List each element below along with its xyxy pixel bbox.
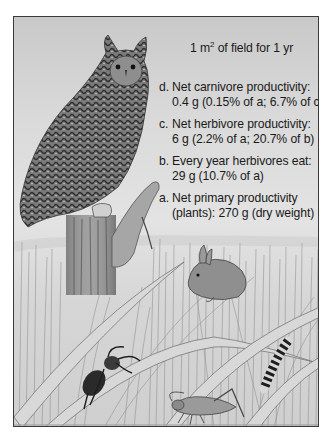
- item-letter: b.: [159, 154, 172, 169]
- item-heading: Net primary productivity: [172, 191, 298, 205]
- title-prefix: 1 m: [190, 41, 210, 55]
- label-b-herbivores-eat: b.Every year herbivores eat: 29 g (10.7%…: [159, 154, 312, 184]
- item-value: (plants): 270 g (dry weight): [159, 206, 314, 221]
- rabbit: [188, 245, 246, 302]
- label-d-carnivore-productivity: d.Net carnivore productivity: 0.4 g (0.1…: [159, 80, 319, 110]
- item-letter: a.: [159, 191, 172, 206]
- label-c-herbivore-productivity: c.Net herbivore productivity: 6 g (2.2% …: [159, 117, 314, 147]
- item-value: 6 g (2.2% of a; 20.7% of b): [159, 132, 314, 147]
- item-heading: Net carnivore productivity:: [172, 80, 310, 94]
- item-value: 0.4 g (0.15% of a; 6.7% of c): [159, 95, 319, 110]
- item-heading: Net herbivore productivity:: [172, 117, 311, 131]
- item-heading: Every year herbivores eat:: [172, 154, 312, 168]
- title-suffix: of field for 1 yr: [214, 41, 293, 55]
- figure-frame: 1 m2 of field for 1 yr d.Net carnivore p…: [13, 16, 319, 427]
- item-letter: d.: [159, 80, 172, 95]
- item-letter: c.: [159, 117, 172, 132]
- figure-title: 1 m2 of field for 1 yr: [190, 41, 293, 56]
- label-a-primary-productivity: a.Net primary productivity (plants): 270…: [159, 191, 314, 221]
- item-value: 29 g (10.7% of a): [159, 169, 312, 184]
- productivity-text-panel: 1 m2 of field for 1 yr d.Net carnivore p…: [159, 17, 319, 237]
- owl: [20, 35, 149, 227]
